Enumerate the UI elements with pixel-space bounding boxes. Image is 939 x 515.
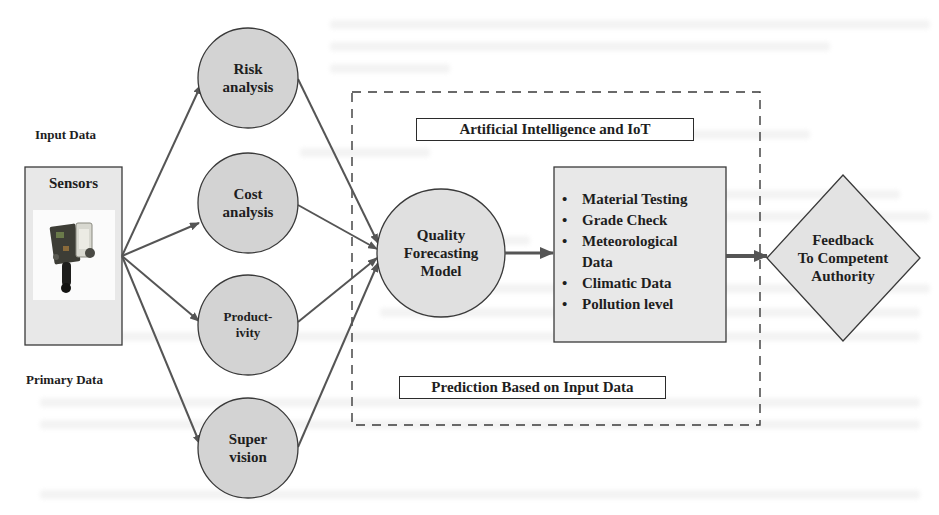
edge-productivity-to-model — [298, 258, 377, 322]
edge-cost-to-model — [298, 205, 377, 249]
input-data-label: Input Data — [35, 127, 96, 143]
ai-iot-title: Artificial Intelligence and IoT — [416, 118, 694, 141]
risk-analysis-label: Risk analysis — [198, 28, 298, 128]
bullet-icon: • — [562, 294, 567, 315]
edge-sensors-to-cost — [122, 223, 199, 256]
quality-forecasting-model-label: Quality Forecasting Model — [377, 189, 505, 317]
prediction-title: Prediction Based on Input Data — [399, 376, 666, 399]
parameter-item: •Meteorological Data — [558, 231, 724, 273]
primary-data-label: Primary Data — [26, 372, 103, 388]
edge-risk-to-model — [298, 79, 378, 243]
edge-sensors-to-supervision — [122, 256, 200, 444]
bullet-icon: • — [562, 189, 567, 210]
productivity-label: Product- ivity — [198, 275, 298, 375]
parameter-item: •Climatic Data — [558, 273, 724, 294]
supervision-label: Super vision — [198, 398, 298, 498]
bullet-icon: • — [562, 231, 567, 252]
bullet-icon: • — [562, 273, 567, 294]
cost-analysis-label: Cost analysis — [198, 153, 298, 253]
feedback-label: Feedback To Competent Authority — [772, 218, 914, 298]
parameter-item: •Material Testing — [558, 189, 724, 210]
edge-sensors-to-risk — [122, 85, 201, 256]
sensors-title: Sensors — [25, 175, 122, 192]
edge-sensors-to-productivity — [122, 256, 199, 321]
parameters-list: •Material Testing •Grade Check •Meteorol… — [558, 189, 724, 315]
parameter-item: •Pollution level — [558, 294, 724, 315]
bullet-icon: • — [562, 210, 567, 231]
parameter-item: •Grade Check — [558, 210, 724, 231]
